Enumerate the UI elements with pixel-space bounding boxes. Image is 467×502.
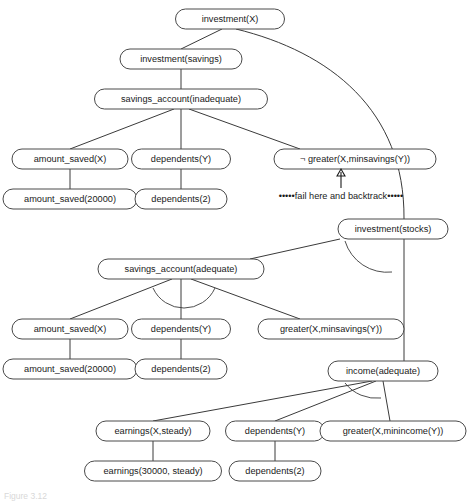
node-label-amount_saved_x_2: amount_saved(X) [34,324,107,334]
node-label-dependents_y_1: dependents(Y) [151,154,211,164]
node-label-dependents_y_3: dependents(Y) [245,426,305,436]
tree-node-earnings_30000_steady: earnings(30000, steady) [85,461,222,481]
node-label-amount_saved_20000_1: amount_saved(20000) [24,194,116,204]
tree-node-amount_saved_x_1: amount_saved(X) [12,149,128,169]
tree-node-investment_savings: investment(savings) [120,49,242,69]
edge-adequate-to-amount-saved [70,279,172,319]
tree-node-earnings_x_steady: earnings(X,steady) [96,421,210,441]
tree-node-dependents_2_3: dependents(2) [229,461,321,481]
node-label-dependents_2_3: dependents(2) [245,466,304,476]
node-label-earnings_30000_steady: earnings(30000, steady) [103,466,202,476]
node-label-investment_savings: investment(savings) [140,54,222,64]
node-label-dependents_2_2: dependents(2) [151,364,210,374]
caption-layer: Figure 3.12 [4,491,47,501]
conjunction-arc-stocks [345,241,392,272]
backtrack-annotation-label: •••••fail here and backtrack••••• [279,191,404,201]
tree-node-dependents_y_1: dependents(Y) [132,149,231,169]
figure-caption: Figure 3.12 [4,491,47,501]
tree-node-greater_minincome: greater(X,minincome(Y)) [320,421,466,441]
tree-node-greater_minsavings: greater(X,minsavings(Y)) [258,319,404,339]
node-label-dependents_2_1: dependents(2) [151,194,210,204]
node-label-amount_saved_20000_2: amount_saved(20000) [24,364,116,374]
tree-node-savings_account_adeq: savings_account(adequate) [98,259,264,279]
node-label-earnings_x_steady: earnings(X,steady) [114,426,191,436]
node-label-greater_minsavings: greater(X,minsavings(Y)) [280,324,382,334]
edge-income-to-earnings [153,381,372,421]
node-label-amount_saved_x_1: amount_saved(X) [34,154,107,164]
tree-node-amount_saved_x_2: amount_saved(X) [12,319,128,339]
tree-node-amount_saved_20000_2: amount_saved(20000) [3,359,137,379]
proof-tree-figure: investment(X)investment(savings)savings_… [0,0,467,502]
proof-tree-diagram: investment(X)investment(savings)savings_… [0,0,467,502]
edge-stocks-to-account-adequate [250,239,340,259]
edge-inadequate-to-amount-saved [70,109,174,149]
edge-income-to-greater-minincome [383,381,390,421]
tree-node-not_greater_minsavings: ¬ greater(X,minsavings(Y)) [274,149,436,169]
conjunction-arc-adequate [153,288,215,308]
node-label-income_adequate: income(adequate) [346,366,420,376]
nodes-layer: investment(X)investment(savings)savings_… [3,9,466,481]
node-label-savings_account_inad: savings_account(inadequate) [121,94,241,104]
node-label-investment_x: investment(X) [202,14,259,24]
node-label-greater_minincome: greater(X,minincome(Y)) [343,426,444,436]
tree-node-savings_account_inad: savings_account(inadequate) [95,89,268,109]
node-label-investment_stocks: investment(stocks) [355,224,432,234]
edge-income-to-dependents [275,381,376,421]
tree-node-income_adequate: income(adequate) [328,361,438,381]
tree-node-amount_saved_20000_1: amount_saved(20000) [3,189,137,209]
edge-investment-x-to-savings [181,29,222,49]
node-label-savings_account_adeq: savings_account(adequate) [125,264,238,274]
edge-inadequate-to-not-greater [189,109,300,149]
tree-node-dependents_2_1: dependents(2) [135,189,227,209]
node-label-dependents_y_2: dependents(Y) [151,324,211,334]
tree-node-investment_x: investment(X) [176,9,285,29]
tree-node-dependents_2_2: dependents(2) [135,359,227,379]
tree-node-investment_stocks: investment(stocks) [338,219,448,239]
tree-node-dependents_y_3: dependents(Y) [226,421,325,441]
tree-node-dependents_y_2: dependents(Y) [132,319,231,339]
annotation-layer: •••••fail here and backtrack••••• [279,169,404,201]
node-label-not_greater_minsavings: ¬ greater(X,minsavings(Y)) [300,154,410,164]
